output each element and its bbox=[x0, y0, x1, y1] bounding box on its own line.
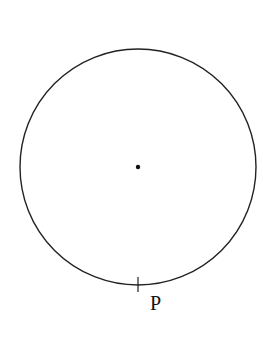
diagram-canvas: P bbox=[0, 0, 263, 344]
center-point bbox=[136, 165, 140, 169]
point-p-label: P bbox=[150, 292, 161, 314]
